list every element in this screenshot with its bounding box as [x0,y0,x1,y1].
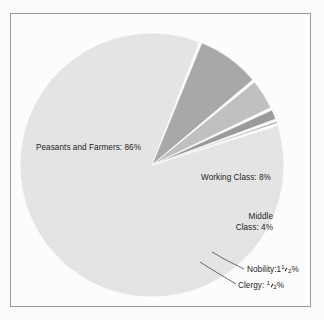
slice-label-clergy-percent: % [277,281,284,290]
slice-label-middle-class-line2: Class: 4% [236,223,273,232]
slice-label-nobility: Nobility:112% [247,265,299,276]
pie-chart-figure: Peasants and Farmers: 86% Working Class:… [0,0,324,320]
slice-label-middle-class-line1: Middle [249,212,273,221]
pie-slices-group [20,33,284,297]
slice-label-working-class: Working Class: 8% [201,173,271,184]
nobility-fraction: 12 [281,265,291,276]
slice-label-middle-class: Middle Class: 4% [213,212,273,233]
slice-label-clergy-text: Clergy: [238,281,267,290]
nobility-fraction-denominator: 2 [288,267,292,274]
slice-label-clergy: Clergy: 12% [238,281,284,292]
slice-label-nobility-text: Nobility:1 [247,265,281,274]
clergy-fraction-numerator: 1 [267,279,271,286]
clergy-fraction-denominator: 2 [273,283,277,290]
clergy-fraction: 12 [267,281,277,292]
slice-label-peasants-and-farmers: Peasants and Farmers: 86% [36,143,141,154]
slice-label-nobility-percent: % [291,265,298,274]
